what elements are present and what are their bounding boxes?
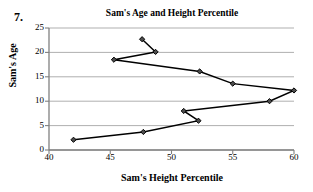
plot-area xyxy=(0,0,313,192)
x-tick-label: 45 xyxy=(95,152,125,162)
y-tick-label: 20 xyxy=(18,46,44,56)
x-tick-label: 40 xyxy=(34,152,64,162)
y-tick-label: 25 xyxy=(18,22,44,32)
x-tick-label: 55 xyxy=(218,152,248,162)
data-point-marker xyxy=(197,69,202,74)
y-tick-label: 5 xyxy=(18,120,44,130)
chart-figure: 7. Sam's Age and Height Percentile Sam's… xyxy=(0,0,313,192)
data-point-marker xyxy=(71,137,76,142)
y-tick-label: 15 xyxy=(18,71,44,81)
data-point-marker xyxy=(267,99,272,104)
y-tick-label: 10 xyxy=(18,95,44,105)
data-point-marker xyxy=(141,129,146,134)
data-point-marker xyxy=(111,57,116,62)
data-series-line xyxy=(74,39,295,140)
x-tick-label: 60 xyxy=(279,152,309,162)
x-tick-label: 50 xyxy=(157,152,187,162)
data-point-marker xyxy=(291,88,296,93)
data-point-marker xyxy=(230,81,235,86)
